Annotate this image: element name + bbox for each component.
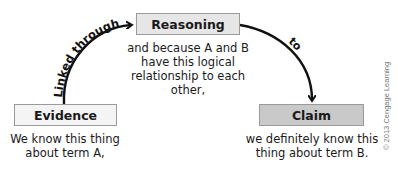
- claim-node: Claim: [259, 104, 364, 126]
- reasoning-node: Reasoning: [136, 13, 240, 35]
- claim-description: we definitely know this thing about term…: [238, 132, 386, 160]
- evidence-label: Evidence: [34, 108, 97, 123]
- reasoning-label: Reasoning: [151, 17, 225, 32]
- claim-label: Claim: [292, 108, 331, 123]
- copyright-notice: © 2013 Cengage Learning: [382, 62, 391, 150]
- reasoning-description: and because A and B have this logical re…: [112, 41, 264, 97]
- to-label: to: [286, 35, 305, 54]
- evidence-description: We know this thing about term A,: [0, 132, 130, 160]
- linked-through-label: Linked through: [51, 16, 120, 98]
- evidence-node: Evidence: [14, 104, 117, 126]
